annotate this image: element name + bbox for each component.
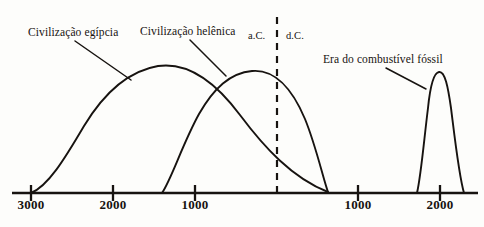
- curve-hellenic-civilization: [162, 71, 328, 193]
- era-label-before-christ: a.C.: [248, 31, 265, 42]
- axis-tick-label-2000bc: 2000: [100, 198, 127, 211]
- era-label-after-christ: d.C.: [286, 31, 304, 42]
- axis-tick-label-2000ad: 2000: [427, 198, 454, 211]
- axis-tick-label-1000bc: 1000: [182, 198, 209, 211]
- historical-civilizations-chart: Civilização egípcia Civilização helênica…: [0, 0, 484, 227]
- curve-label-fossil-fuel-era: Era do combustível fóssil: [323, 54, 443, 66]
- curve-label-egyptian-civilization: Civilização egípcia: [28, 27, 118, 39]
- axis-tick-label-3000bc: 3000: [18, 198, 45, 211]
- axis-tick-label-1000ad: 1000: [345, 198, 372, 211]
- curve-label-hellenic-civilization: Civilização helênica: [140, 26, 236, 38]
- leader-line-egypt: [75, 41, 131, 80]
- curve-fossil-fuel-era: [417, 72, 464, 193]
- leader-line-hellas: [190, 40, 226, 76]
- leader-line-fossil: [386, 68, 426, 89]
